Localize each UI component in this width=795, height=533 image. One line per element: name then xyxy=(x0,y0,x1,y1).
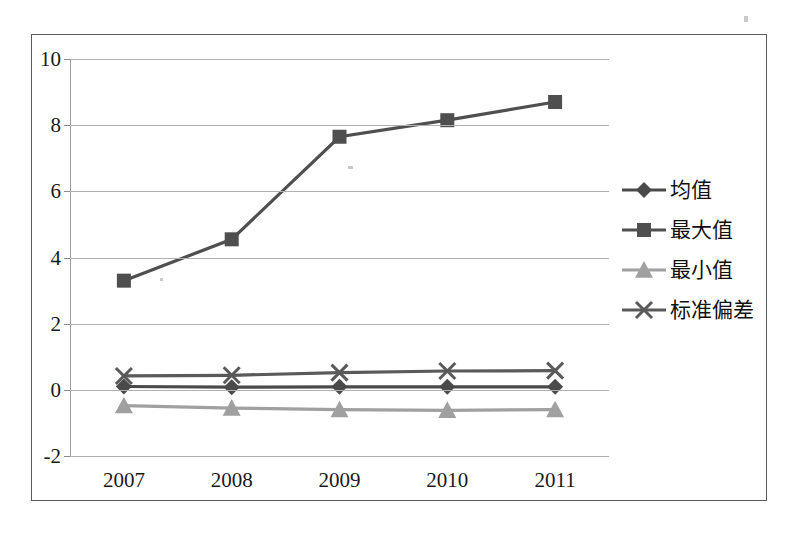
scan-speck xyxy=(348,166,353,169)
legend-item-label: 标准偏差 xyxy=(670,300,754,321)
scan-speck xyxy=(744,16,748,22)
legend-marker-diamond-icon xyxy=(622,179,666,201)
chart-figure-frame: -2024681020072008200920102011 均值最大值最小值标准… xyxy=(31,34,767,501)
data-point-marker xyxy=(333,130,347,144)
plot-area: -2024681020072008200920102011 xyxy=(70,59,609,456)
y-axis-tick-mark xyxy=(64,390,70,391)
gridline xyxy=(70,456,609,457)
gridline xyxy=(70,59,609,60)
legend-item-4[interactable]: 标准偏差 xyxy=(622,290,767,330)
y-axis-tick-mark xyxy=(64,258,70,259)
data-point-marker xyxy=(547,379,563,395)
scan-speck xyxy=(160,278,163,281)
y-axis-tick-label: 8 xyxy=(51,115,62,136)
gridline xyxy=(70,390,609,391)
x-axis-tick-label: 2007 xyxy=(103,470,145,491)
legend-item-2[interactable]: 最大值 xyxy=(622,210,767,250)
legend-marker-cross-icon xyxy=(622,299,666,321)
chart-canvas: -2024681020072008200920102011 均值最大值最小值标准… xyxy=(32,35,766,500)
data-point-marker xyxy=(548,95,562,109)
data-point-marker xyxy=(636,182,652,198)
legend-item-label: 最小值 xyxy=(670,260,733,281)
y-axis-tick-label: 2 xyxy=(51,313,62,334)
y-axis-tick-mark xyxy=(64,125,70,126)
y-axis-tick-label: -2 xyxy=(44,446,62,467)
legend-item-1[interactable]: 均值 xyxy=(622,170,767,210)
x-axis-tick-label: 2009 xyxy=(319,470,361,491)
y-axis-tick-label: 4 xyxy=(51,247,62,268)
y-axis-tick-mark xyxy=(64,456,70,457)
series-diamond xyxy=(116,379,563,396)
data-point-marker xyxy=(637,223,651,237)
y-axis-tick-label: 10 xyxy=(40,49,61,70)
series-triangle xyxy=(115,397,564,418)
y-axis-tick-mark xyxy=(64,59,70,60)
legend-item-3[interactable]: 最小值 xyxy=(622,250,767,290)
x-axis-tick-label: 2011 xyxy=(534,470,575,491)
gridline xyxy=(70,191,609,192)
gridline xyxy=(70,125,609,126)
legend-item-label: 最大值 xyxy=(670,220,733,241)
legend-item-label: 均值 xyxy=(670,180,712,201)
legend-marker-triangle-icon xyxy=(622,259,666,281)
data-point-marker xyxy=(332,379,348,395)
y-axis-tick-mark xyxy=(64,324,70,325)
data-point-marker xyxy=(225,232,239,246)
x-axis-tick-label: 2008 xyxy=(211,470,253,491)
data-point-marker xyxy=(439,379,455,395)
data-point-marker xyxy=(117,274,131,288)
x-axis-tick-label: 2010 xyxy=(426,470,468,491)
gridline xyxy=(70,324,609,325)
y-axis-tick-label: 6 xyxy=(51,181,62,202)
gridline xyxy=(70,258,609,259)
y-axis-tick-mark xyxy=(64,191,70,192)
legend-marker-square-icon xyxy=(622,219,666,241)
y-axis-tick-label: 0 xyxy=(51,379,62,400)
chart-legend: 均值最大值最小值标准偏差 xyxy=(622,170,767,330)
